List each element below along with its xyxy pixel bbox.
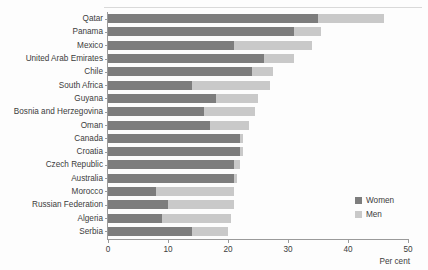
y-axis-tick [105,112,108,113]
bar-group: Serbia [108,227,408,236]
y-axis-tick [105,125,108,126]
x-axis-tick [168,239,169,243]
y-axis-tick [105,218,108,219]
x-axis-tick-label: 0 [106,245,111,254]
bar-group: Mexico [108,41,408,50]
bar-group: United Arab Emirates [108,54,408,63]
category-label: South Africa [59,81,103,90]
category-label: Czech Republic [46,160,103,169]
y-axis-tick [105,85,108,86]
category-label: Australia [71,174,103,183]
category-label: Serbia [79,227,103,236]
x-axis-tick-label: 20 [223,245,232,254]
bar-segment-women[interactable] [108,81,192,90]
chart-legend: Women Men [355,196,394,224]
category-label: Canada [74,134,103,143]
bar-chart-figure: QatarPanamaMexicoUnited Arab EmiratesChi… [0,0,428,270]
bar-group: Morocco [108,187,408,196]
bar-group: Panama [108,27,408,36]
legend-item-women[interactable]: Women [355,196,394,205]
legend-item-men[interactable]: Men [355,210,394,219]
x-axis-tick-label: 10 [163,245,172,254]
category-label: Mexico [77,41,103,50]
category-label: Algeria [78,214,104,223]
y-axis-tick [105,32,108,33]
y-axis-tick [105,191,108,192]
y-axis-tick [105,98,108,99]
bar-segment-women[interactable] [108,41,234,50]
legend-label-men: Men [366,210,382,219]
category-label: Bosnia and Herzegovina [14,107,103,116]
x-axis-tick-label: 50 [403,245,412,254]
y-axis-tick [105,152,108,153]
bar-segment-women[interactable] [108,67,252,76]
legend-label-women: Women [366,196,394,205]
x-axis-line [107,239,409,240]
y-axis-tick [105,205,108,206]
category-label: Oman [81,121,103,130]
category-label: United Arab Emirates [26,54,103,63]
category-label: Croatia [77,147,103,156]
y-axis-tick [105,45,108,46]
bar-segment-women[interactable] [108,94,216,103]
x-axis-tick [288,239,289,243]
bar-segment-women[interactable] [108,147,240,156]
x-axis-tick-label: 30 [283,245,292,254]
bar-group: Oman [108,121,408,130]
bar-segment-women[interactable] [108,200,168,209]
category-label: Guyana [74,94,103,103]
bar-segment-women[interactable] [108,14,318,23]
category-label: Chile [84,67,103,76]
bar-segment-women[interactable] [108,214,162,223]
bar-segment-women[interactable] [108,187,156,196]
bar-group: Qatar [108,14,408,23]
y-axis-tick [105,59,108,60]
x-axis-title: Per cent [380,257,411,266]
x-axis-tick [348,239,349,243]
x-axis-tick [108,239,109,243]
category-label: Panama [73,27,104,36]
category-label: Russian Federation [32,200,103,209]
bar-segment-women[interactable] [108,107,204,116]
bar-segment-women[interactable] [108,134,240,143]
bar-segment-women[interactable] [108,160,234,169]
y-axis-tick [105,231,108,232]
x-axis-tick [228,239,229,243]
x-axis-tick [408,239,409,243]
bar-group: Croatia [108,147,408,156]
bar-segment-women[interactable] [108,121,210,130]
bar-segment-women[interactable] [108,27,294,36]
legend-swatch-women [355,197,362,204]
y-axis-tick [105,138,108,139]
bar-group: Australia [108,174,408,183]
category-label: Morocco [72,187,103,196]
figure-top-rule [104,7,422,8]
bar-group: Chile [108,67,408,76]
bar-group: Bosnia and Herzegovina [108,107,408,116]
bar-segment-women[interactable] [108,174,234,183]
legend-swatch-men [355,211,362,218]
category-label: Qatar [83,14,103,23]
y-axis-tick [105,178,108,179]
bar-segment-women[interactable] [108,227,192,236]
bar-group: South Africa [108,81,408,90]
y-axis-tick [105,19,108,20]
bar-group: Guyana [108,94,408,103]
y-axis-tick [105,72,108,73]
bar-group: Czech Republic [108,160,408,169]
y-axis-tick [105,165,108,166]
x-axis-tick-label: 40 [343,245,352,254]
bar-segment-women[interactable] [108,54,264,63]
bar-group: Canada [108,134,408,143]
